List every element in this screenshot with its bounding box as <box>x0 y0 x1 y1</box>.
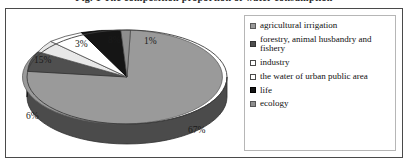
legend-item-ecology[interactable]: ecology <box>250 99 391 109</box>
legend-item-life[interactable]: life <box>250 86 391 96</box>
plot-area: 15% 3% 8% 1% 6% 67% <box>6 9 246 157</box>
legend-label-life: life <box>260 86 272 96</box>
legend-swatch-industry <box>250 60 256 66</box>
pct-label-life: 8% <box>108 35 121 45</box>
pct-label-industry: 15% <box>34 55 51 65</box>
legend-label-urban-public-area: the water of urban public area <box>260 72 368 82</box>
pie-chart-figure: Fig. 1 The composition proportion of wat… <box>0 0 408 165</box>
pct-label-forestry: 6% <box>26 111 39 121</box>
legend-swatch-agricultural-irrigation <box>250 23 256 29</box>
pct-label-agricultural-irrigation: 67% <box>188 125 205 135</box>
legend-item-urban-public-area[interactable]: the water of urban public area <box>250 72 391 82</box>
chart-frame: 15% 3% 8% 1% 6% 67% agricultural irrigat… <box>5 8 403 158</box>
legend-swatch-ecology <box>250 101 256 107</box>
legend-item-industry[interactable]: industry <box>250 58 391 68</box>
legend-swatch-urban-public-area <box>250 74 256 80</box>
figure-title: Fig. 1 The composition proportion of wat… <box>0 0 408 3</box>
pie-graphic: 15% 3% 8% 1% 6% 67% <box>20 15 235 147</box>
legend-label-ecology: ecology <box>260 99 289 109</box>
legend-swatch-life <box>250 87 256 93</box>
figure-title-strip: Fig. 1 The composition proportion of wat… <box>0 0 408 7</box>
legend-item-forestry[interactable]: forestry, animal husbandry and fishery <box>250 35 391 54</box>
legend-label-agricultural-irrigation: agricultural irrigation <box>260 21 337 31</box>
pct-label-urban-public-area: 3% <box>75 39 88 49</box>
legend-label-forestry: forestry, animal husbandry and fishery <box>260 35 391 54</box>
legend-label-industry: industry <box>260 58 290 68</box>
legend-box: agricultural irrigation forestry, animal… <box>244 15 396 151</box>
pct-label-ecology: 1% <box>144 36 157 46</box>
legend-item-agricultural-irrigation[interactable]: agricultural irrigation <box>250 21 391 31</box>
legend-swatch-forestry <box>250 41 256 47</box>
